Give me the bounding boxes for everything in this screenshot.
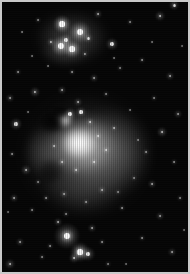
ngc1977-star-e-glow — [60, 34, 72, 46]
field-star-w5 — [11, 153, 13, 155]
field-star-w8 — [31, 209, 33, 211]
field-star-e12 — [171, 251, 173, 253]
ngc1977-star-h — [84, 53, 86, 55]
m42-star-core-s1-glow — [90, 158, 98, 166]
field-star-x4-glow — [30, 54, 34, 58]
bright-star-south-i — [65, 213, 67, 215]
ngc1977-star-a — [59, 21, 64, 26]
field-star-m4-glow — [103, 91, 109, 97]
field-star-m6 — [119, 67, 121, 69]
field-star-w10 — [9, 263, 12, 266]
field-star-s2-glow — [60, 190, 68, 198]
field-star-s5-glow — [115, 189, 121, 195]
bright-star-south-j-glow — [105, 261, 111, 267]
field-star-e1 — [141, 59, 143, 61]
field-star-s3-glow — [83, 199, 89, 205]
bright-star-south-d — [73, 257, 76, 260]
field-star-s1 — [45, 197, 47, 199]
field-star-x2 — [137, 139, 139, 141]
field-star-n2-glow — [155, 11, 165, 21]
sensor-grain-overlay — [2, 2, 188, 272]
ngc1977-star-c — [58, 43, 64, 49]
ngc1977-star-a-glow — [53, 15, 71, 33]
orion-nebula-south-extension — [44, 154, 124, 214]
field-star-s4-glow — [98, 186, 106, 194]
field-star-e2 — [169, 75, 171, 77]
field-star-e8-glow — [148, 180, 156, 188]
field-star-x9-glow — [124, 262, 128, 266]
field-star-w6 — [25, 169, 28, 172]
bright-star-south-e — [57, 221, 59, 223]
field-star-x10 — [7, 211, 9, 213]
dark-lane-southwest — [38, 160, 62, 184]
field-star-w1-glow — [15, 69, 21, 75]
field-star-x6-glow — [150, 40, 154, 44]
field-star-w4 — [14, 122, 17, 125]
field-star-e10 — [159, 215, 161, 217]
field-star-m2 — [93, 77, 95, 79]
ngc1977-star-g — [50, 41, 53, 44]
field-star-n6 — [37, 19, 39, 21]
m42-star-core-n3-glow — [86, 118, 94, 126]
field-star-n1 — [110, 42, 114, 46]
ngc1977-star-d — [69, 46, 74, 51]
field-star-e8 — [151, 183, 153, 185]
field-star-n4 — [97, 13, 99, 15]
field-star-e13 — [121, 207, 123, 209]
ngc1977-star-f-glow — [83, 33, 93, 43]
field-star-x1 — [129, 109, 131, 111]
bright-star-south-b-glow — [70, 242, 90, 262]
m42-star-core-w1 — [53, 145, 55, 147]
field-star-s1-glow — [43, 195, 49, 201]
field-star-e13-glow — [119, 205, 125, 211]
m42-star-core-e3 — [113, 127, 115, 129]
field-star-n5-glow — [127, 19, 133, 25]
field-star-x6 — [151, 41, 153, 43]
field-star-w5-glow — [9, 151, 15, 157]
field-star-e1-glow — [139, 57, 145, 63]
ngc1977-star-h-glow — [82, 51, 88, 57]
field-star-e14 — [133, 177, 135, 179]
field-star-e3 — [153, 97, 155, 99]
field-star-w10-glow — [5, 259, 15, 269]
field-star-m7 — [47, 65, 49, 67]
field-star-e3-glow — [151, 95, 157, 101]
field-star-n4-glow — [94, 10, 102, 18]
orion-nebula-bright-knot — [55, 112, 73, 128]
field-star-w1 — [17, 71, 19, 73]
field-star-w6-glow — [21, 165, 31, 175]
field-star-x8-glow — [182, 228, 186, 232]
m42-star-core-e1-glow — [94, 132, 102, 140]
m42-star-core-n1 — [68, 112, 72, 116]
field-star-x5-glow — [112, 56, 116, 60]
field-star-s4 — [101, 189, 103, 191]
field-star-n1-glow — [106, 38, 118, 50]
ngc1977-star-b-glow — [69, 21, 91, 43]
field-star-m4 — [105, 93, 107, 95]
bright-star-south-g-glow — [99, 239, 105, 245]
running-man-lower-lobe — [40, 38, 88, 66]
field-star-x7 — [181, 45, 183, 47]
ngc1977-star-b — [77, 29, 83, 35]
field-star-w8-glow — [29, 207, 35, 213]
bright-star-south-g — [101, 241, 103, 243]
ngc1977-star-d-glow — [63, 40, 81, 58]
m42-star-core-s2 — [75, 169, 77, 171]
field-star-m3 — [61, 89, 63, 91]
ngc1977-star-e — [64, 38, 67, 41]
field-star-w11-glow — [39, 254, 45, 260]
readout-streak-overlay — [2, 2, 188, 272]
field-star-w4-glow — [10, 118, 22, 130]
m42-star-core-s2-glow — [72, 166, 80, 174]
field-star-w7-glow — [10, 194, 18, 202]
orion-nebula-east-wing — [70, 110, 150, 194]
bright-star-south-h-glow — [47, 243, 53, 249]
field-star-w9-glow — [16, 238, 24, 246]
field-star-e5-glow — [157, 127, 167, 137]
field-star-s2 — [63, 193, 65, 195]
field-star-m2-glow — [90, 74, 98, 82]
field-star-x9 — [125, 263, 127, 265]
field-star-n2 — [159, 15, 162, 18]
field-star-m5-glow — [74, 98, 82, 106]
bright-star-south-e-glow — [54, 218, 62, 226]
